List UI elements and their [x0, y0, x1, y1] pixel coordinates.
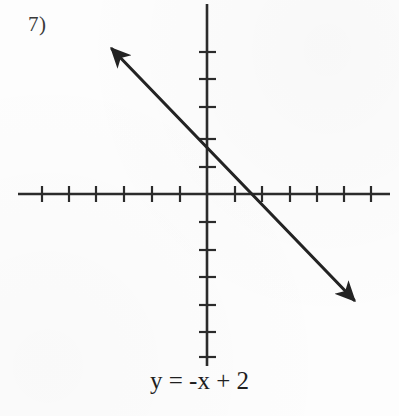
worksheet-page: 7)	[0, 0, 399, 416]
axes-group	[18, 4, 390, 366]
plotted-line-y-equals-negative-x-plus-2	[112, 49, 354, 300]
equation-caption: y = -x + 2	[0, 368, 399, 393]
coordinate-plane-graph	[0, 0, 399, 416]
